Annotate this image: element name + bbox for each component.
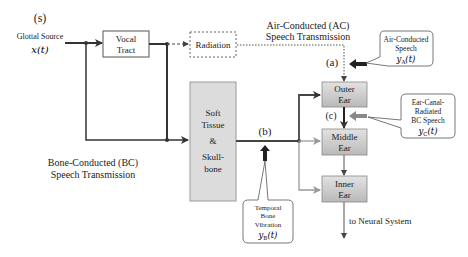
ear-canal-callout-signal: yC(t) xyxy=(417,126,437,137)
ear-canal-radiated-bc-callout: Ear-Canal- Radiated BC Speech yC(t) xyxy=(368,94,455,138)
middle-ear-label-2: Ear xyxy=(338,143,351,153)
soft-tissue-skull-bone-block: Soft Tissue & Skull- bone xyxy=(190,82,236,201)
middle-ear-label-1: Middle xyxy=(332,132,358,142)
vocal-tract-label-1: Vocal xyxy=(116,34,137,44)
ear-canal-callout-line-3: BC Speech xyxy=(411,116,445,125)
inner-ear-block: Inner Ear xyxy=(322,176,367,202)
source-signal: x(t) xyxy=(31,44,49,55)
inner-ear-label-2: Ear xyxy=(338,190,351,200)
bc-label-1: Bone-Conducted (BC) xyxy=(48,157,138,169)
outer-ear-label-1: Outer xyxy=(334,84,355,94)
ac-callout-signal: yA(t) xyxy=(396,54,416,65)
bc-path-line xyxy=(86,43,167,140)
vocal-tract-block: Vocal Tract xyxy=(103,31,149,57)
soft-tissue-label-3: & xyxy=(209,136,216,146)
temporal-callout-signal: yB(t) xyxy=(258,230,278,241)
speech-transmission-diagram: (s) Glottal Source x(t) Vocal Tract Radi… xyxy=(0,0,468,257)
temporal-bone-vibration-callout: Temporal Bone Vibration yB(t) xyxy=(243,161,293,243)
point-c: (c) xyxy=(325,110,336,122)
temporal-callout-line-2: Bone xyxy=(261,212,276,220)
ac-probe-arrow-icon xyxy=(349,59,367,69)
soft-tissue-label-4: Skull- xyxy=(202,152,224,162)
ac-callout-line-2: Speech xyxy=(395,44,417,53)
temporal-callout-line-3: Vibration xyxy=(255,221,282,229)
outer-ear-block: Outer Ear xyxy=(322,82,367,107)
to-outer-ear-arrow xyxy=(299,95,320,141)
outer-ear-label-2: Ear xyxy=(338,95,351,105)
glottal-source: (s) Glottal Source x(t) xyxy=(17,11,64,55)
to-inner-ear-arrow xyxy=(299,141,320,190)
neural-system-label: to Neural System xyxy=(349,216,412,226)
ac-callout-line-1: Air-Conducted xyxy=(384,35,429,44)
source-marker: (s) xyxy=(34,11,47,25)
soft-tissue-label-1: Soft xyxy=(205,108,221,118)
inner-ear-label-1: Inner xyxy=(335,179,354,189)
air-conducted-speech-callout: Air-Conducted Speech yA(t) xyxy=(366,31,433,66)
radiation-block: Radiation xyxy=(190,32,236,57)
ear-canal-callout-line-2: Radiated xyxy=(415,107,442,116)
soft-tissue-label-5: bone xyxy=(204,164,222,174)
temporal-bone-probe-arrow-icon xyxy=(260,145,270,161)
ac-label-2: Speech Transmission xyxy=(266,31,351,42)
point-a: (a) xyxy=(326,56,339,69)
soft-tissue-label-2: Tissue xyxy=(201,120,224,130)
ear-canal-callout-line-1: Ear-Canal- xyxy=(412,98,445,107)
source-title: Glottal Source xyxy=(17,32,64,41)
point-b: (b) xyxy=(259,125,272,138)
temporal-callout-line-1: Temporal xyxy=(255,204,282,212)
bc-label-2: Speech Transmission xyxy=(51,169,136,180)
ear-canal-probe-arrow-icon xyxy=(349,111,367,121)
middle-ear-block: Middle Ear xyxy=(322,129,367,155)
radiation-label: Radiation xyxy=(196,40,231,50)
vocal-tract-label-2: Tract xyxy=(117,45,136,55)
